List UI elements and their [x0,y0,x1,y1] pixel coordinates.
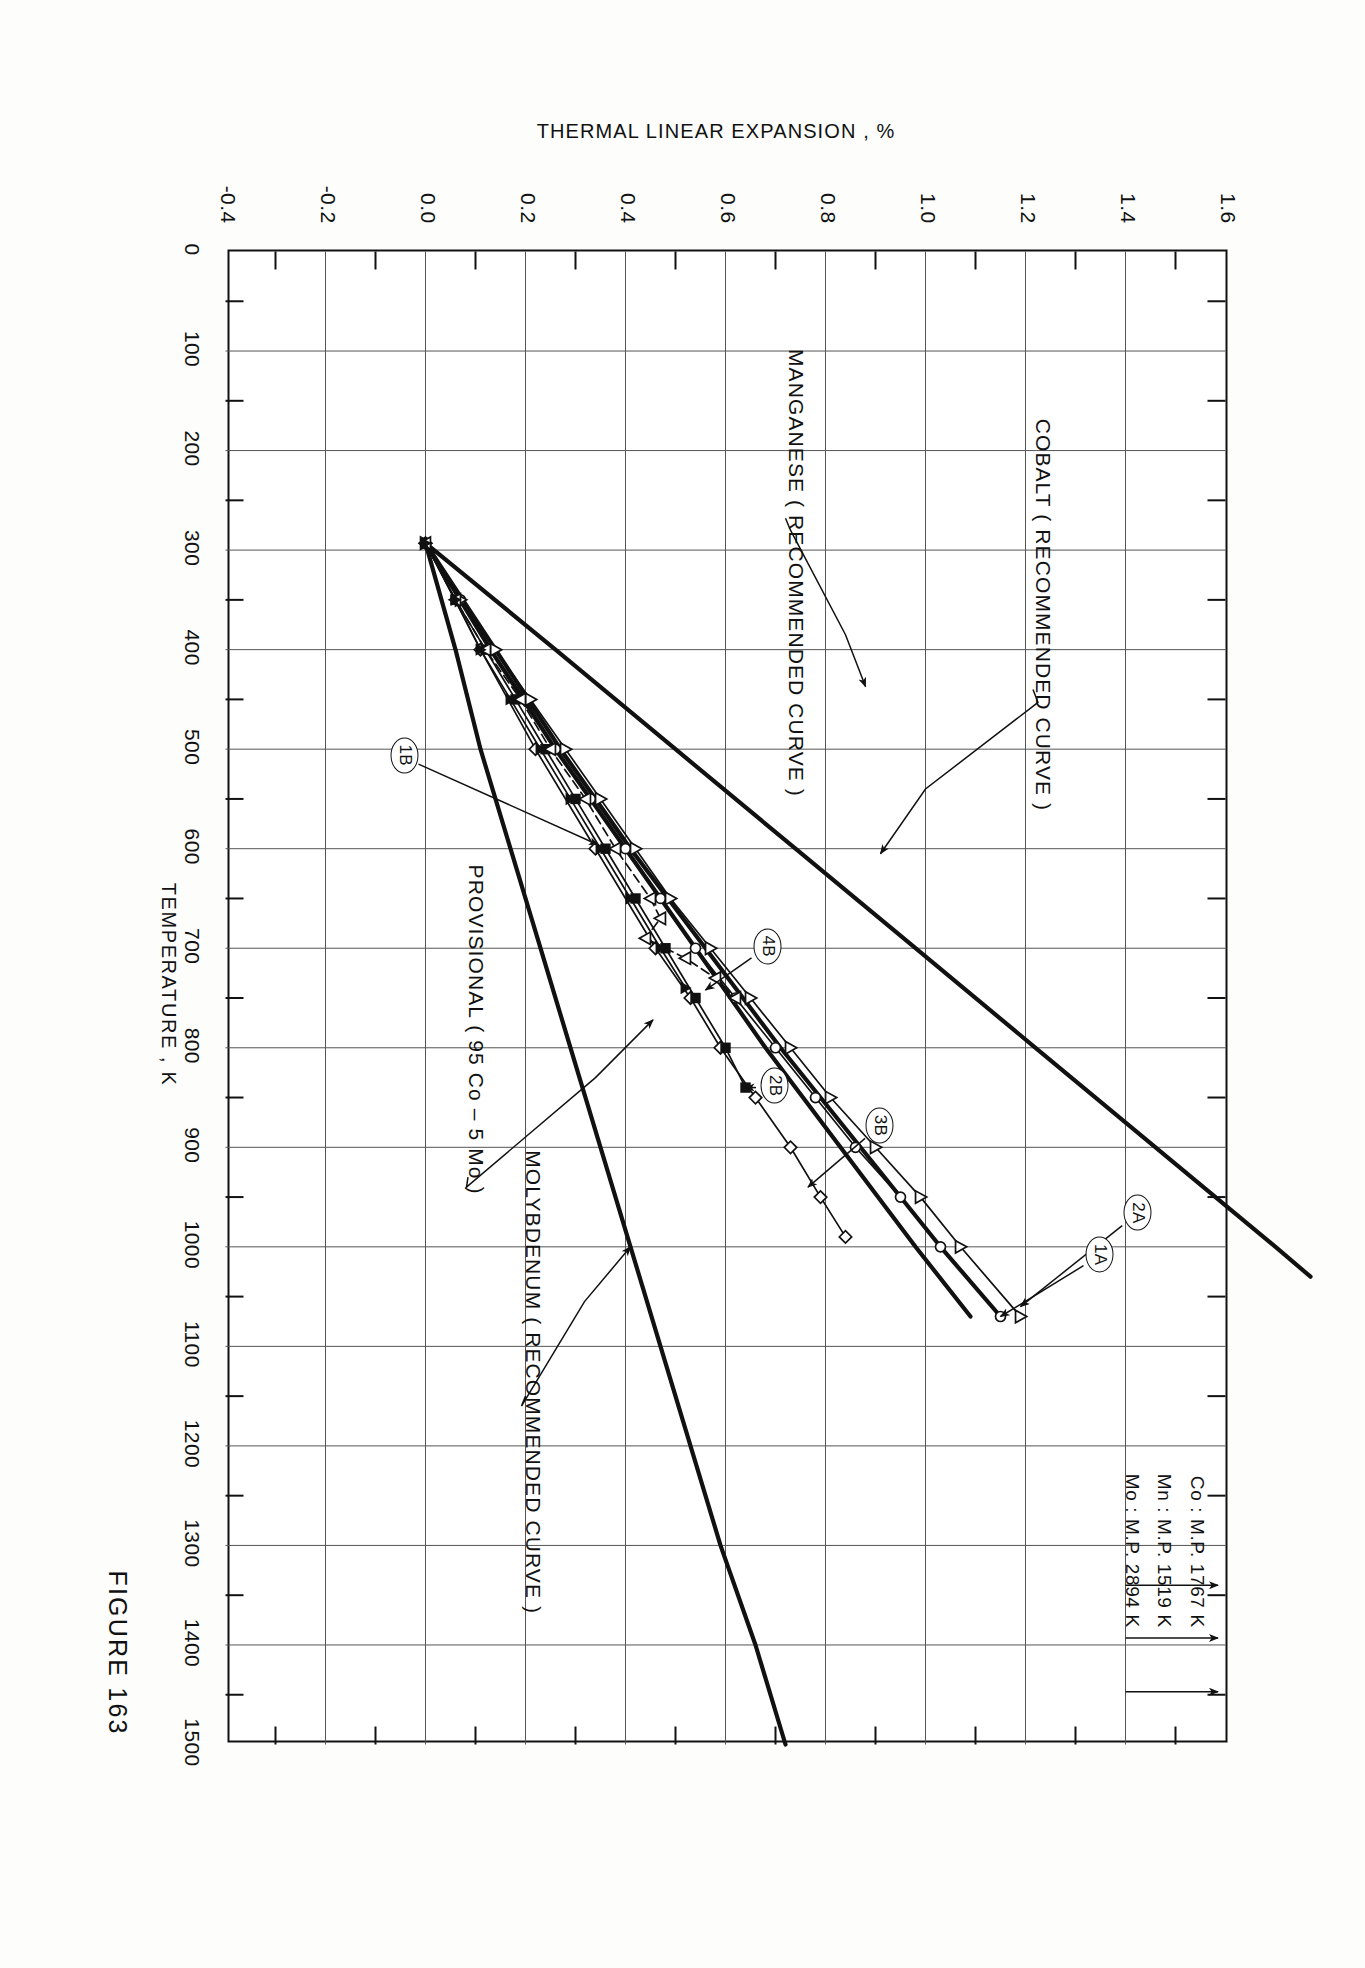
x-tick-label: 500 [179,729,203,765]
x-axis-title: TEMPERATURE , K [156,100,179,1870]
x-tick-label: 900 [179,1127,203,1163]
curve-id-badge: 1A [1086,1237,1114,1273]
annotation-provisional: PROVISIONAL ( 95 Co – 5 Mo ) [463,865,487,1195]
data-series [420,537,1026,1323]
x-tick-label: 700 [179,928,203,964]
data-series [425,543,970,1316]
x-tick-label: 1400 [179,1619,203,1667]
x-tick-label: 0 [179,243,203,255]
y-tick-label: 1.0 [915,100,939,224]
plot-overlay [225,252,1225,1745]
data-series [420,537,691,994]
annotation-molybdenum: MOLYBDENUM ( RECOMMENDED CURVE ) [521,1150,545,1614]
curve-id-badge: 3B [866,1107,894,1143]
x-tick-label: 1500 [179,1718,203,1766]
y-tick-label: 1.2 [1015,100,1039,224]
annotation-manganese: MANGANESE ( RECOMMENDED CURVE ) [783,349,807,797]
x-tick-label: 1200 [179,1420,203,1468]
x-tick-label: 1000 [179,1221,203,1269]
y-tick-label: 0.4 [615,100,639,224]
melting-point-row-mn: Mn : M.P. 1519 K [1147,1474,1180,1628]
x-tick-label: 200 [179,430,203,466]
y-tick-label: -0.4 [215,100,239,224]
data-series [425,543,1000,1316]
figure-canvas: THERMAL LINEAR EXPANSION OF A. COBALT – … [80,100,1285,1870]
y-tick-label: 0.2 [515,100,539,224]
annotation-cobalt: COBALT ( RECOMMENDED CURVE ) [1031,419,1055,812]
x-tick-label: 800 [179,1028,203,1064]
melting-point-row-co: Co : M.P. 1767 K [1179,1474,1212,1628]
x-tick-label: 1300 [179,1519,203,1567]
figure-caption: FIGURE 163 [102,1571,131,1736]
y-tick-label: 1.6 [1215,100,1239,224]
y-tick-label: 0.6 [715,100,739,224]
x-tick-label: 100 [179,331,203,367]
plot-area [227,250,1227,1743]
y-tick-label: 0.8 [815,100,839,224]
curve-id-badge: 1B [391,737,419,773]
figure-page: THERMAL LINEAR EXPANSION OF A. COBALT – … [0,0,1365,1968]
x-tick-label: 600 [179,829,203,865]
curve-id-badge: 2B [761,1068,789,1104]
y-tick-label: 1.4 [1115,100,1139,224]
y-axis-title: THERMAL LINEAR EXPANSION , % [486,120,946,143]
gridlines [225,252,1225,1745]
x-tick-label: 300 [179,530,203,566]
y-tick-label: 0.0 [415,100,439,224]
x-tick-label: 1100 [179,1321,203,1368]
x-tick-label: 400 [179,630,203,666]
curve-id-badge: 2A [1123,1195,1151,1231]
data-series [425,543,1310,1277]
melting-point-row-mo: Mo : M.P. 2894 K [1114,1474,1147,1628]
y-tick-label: -0.2 [315,100,339,224]
rotated-figure-wrapper: THERMAL LINEAR EXPANSION OF A. COBALT – … [80,100,1285,1870]
melting-point-legend: Co : M.P. 1767 K Mn : M.P. 1519 K Mo : M… [1114,1474,1212,1628]
curve-id-badge: 4B [753,928,781,964]
data-series [420,538,1005,1321]
